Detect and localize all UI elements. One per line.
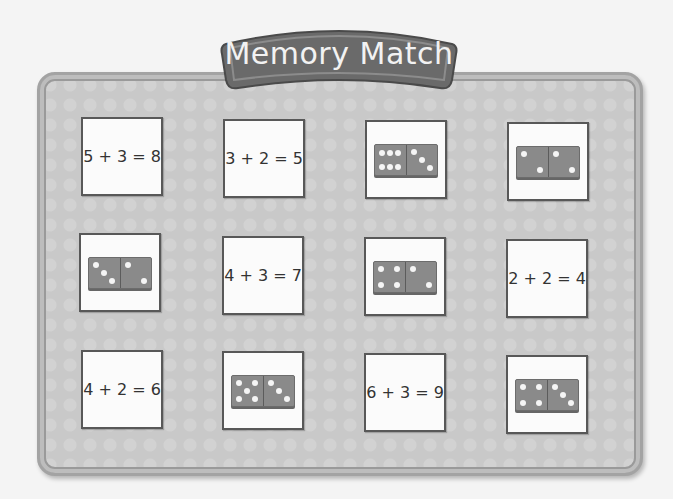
equation-text: 4 + 3 = 7 — [224, 266, 302, 285]
memory-card[interactable] — [222, 351, 304, 430]
memory-card[interactable]: 4 + 2 = 6 — [81, 350, 163, 429]
memory-card[interactable] — [506, 355, 588, 434]
memory-card[interactable]: 6 + 3 = 9 — [364, 353, 446, 432]
equation-text: 5 + 3 = 8 — [83, 147, 161, 166]
domino-icon-2-2 — [516, 146, 580, 178]
memory-card[interactable] — [365, 120, 447, 199]
equation-text: 6 + 3 = 9 — [366, 383, 444, 402]
memory-card[interactable]: 5 + 3 = 8 — [81, 117, 163, 196]
memory-card[interactable]: 3 + 2 = 5 — [223, 119, 305, 198]
memory-card[interactable] — [79, 233, 161, 312]
memory-card[interactable]: 2 + 2 = 4 — [506, 239, 588, 318]
domino-icon-4-3 — [515, 379, 579, 411]
title-banner: Memory Match — [216, 22, 462, 96]
equation-text: 2 + 2 = 4 — [508, 269, 586, 288]
domino-icon-5-3 — [231, 375, 295, 407]
memory-card[interactable] — [364, 237, 446, 316]
equation-text: 3 + 2 = 5 — [225, 149, 303, 168]
domino-icon-6-3 — [374, 144, 438, 176]
domino-icon-3-2 — [88, 257, 152, 289]
page-title: Memory Match — [216, 36, 462, 71]
memory-card[interactable] — [507, 122, 589, 201]
memory-card[interactable]: 4 + 3 = 7 — [222, 236, 304, 315]
equation-text: 4 + 2 = 6 — [83, 380, 161, 399]
domino-icon-4-2 — [373, 261, 437, 293]
